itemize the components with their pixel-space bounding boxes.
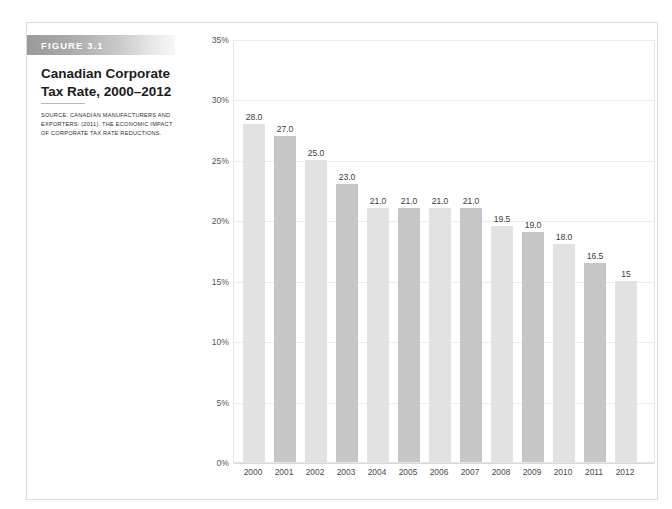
- bar[interactable]: [460, 208, 482, 462]
- y-axis-tick-label: 0%: [217, 458, 229, 468]
- bar-column[interactable]: 19.0: [522, 39, 544, 462]
- chart-region: 35%30%25%20%15%10%5%0% 28.027.025.023.02…: [195, 23, 657, 499]
- x-axis-tick-label: 2000: [238, 467, 268, 477]
- figure-caption-panel: FIGURE 3.1 Canadian Corporate Tax Rate, …: [27, 23, 195, 499]
- figure-number-badge: FIGURE 3.1: [27, 35, 175, 55]
- y-axis-tick-label: 20%: [212, 216, 229, 226]
- x-axis-tick-label: 2003: [331, 467, 361, 477]
- x-axis-tick-label: 2006: [424, 467, 454, 477]
- bar-column[interactable]: 23.0: [336, 39, 358, 462]
- y-axis-tick-label: 25%: [212, 156, 229, 166]
- bar-column[interactable]: 25.0: [305, 39, 327, 462]
- bar-column[interactable]: 21.0: [398, 39, 420, 462]
- y-axis-tick-label: 5%: [217, 398, 229, 408]
- x-axis-tick-label: 2010: [548, 467, 578, 477]
- bar[interactable]: [243, 124, 265, 462]
- x-axis-tick-labels: 2000200120022003200420052006200720082009…: [233, 467, 655, 485]
- bar-value-label: 23.0: [336, 172, 358, 182]
- caption-divider: [41, 103, 85, 104]
- bar-column[interactable]: 18.0: [553, 39, 575, 462]
- bar-column[interactable]: 16.5: [584, 39, 606, 462]
- figure-number-label: FIGURE 3.1: [27, 40, 104, 51]
- bar-column[interactable]: 21.0: [429, 39, 451, 462]
- bar-column[interactable]: 21.0: [367, 39, 389, 462]
- x-axis-tick-label: 2007: [455, 467, 485, 477]
- bar-column[interactable]: 15: [615, 39, 637, 462]
- y-axis-tick-label: 35%: [212, 35, 229, 45]
- bar-value-label: 18.0: [553, 232, 575, 242]
- figure-source-note: SOURCE: CANADIAN MANUFACTURERS AND EXPOR…: [41, 111, 173, 138]
- bar-value-label: 19.5: [491, 214, 513, 224]
- figure-title: Canadian Corporate Tax Rate, 2000–2012: [41, 65, 187, 101]
- bar[interactable]: [367, 208, 389, 462]
- bar[interactable]: [336, 184, 358, 462]
- x-axis-tick-label: 2011: [579, 467, 609, 477]
- bar[interactable]: [398, 208, 420, 462]
- bar-value-label: 16.5: [584, 251, 606, 261]
- bar-column[interactable]: 19.5: [491, 39, 513, 462]
- bar[interactable]: [615, 281, 637, 462]
- x-axis-tick-label: 2004: [362, 467, 392, 477]
- bar-value-label: 27.0: [274, 124, 296, 134]
- x-axis-tick-label: 2008: [486, 467, 516, 477]
- y-axis-tick-label: 15%: [212, 277, 229, 287]
- y-axis-tick-label: 10%: [212, 337, 229, 347]
- bar-value-label: 21.0: [367, 196, 389, 206]
- x-axis-tick-label: 2012: [610, 467, 640, 477]
- bar[interactable]: [553, 244, 575, 462]
- figure-frame: FIGURE 3.1 Canadian Corporate Tax Rate, …: [26, 22, 658, 500]
- x-axis-tick-label: 2005: [393, 467, 423, 477]
- bar-column[interactable]: 21.0: [460, 39, 482, 462]
- bar-column[interactable]: 28.0: [243, 39, 265, 462]
- y-axis-tick-label: 30%: [212, 95, 229, 105]
- bar-value-label: 15: [615, 269, 637, 279]
- bar-value-label: 28.0: [243, 112, 265, 122]
- bar[interactable]: [429, 208, 451, 462]
- bar-value-label: 21.0: [460, 196, 482, 206]
- x-axis-tick-label: 2002: [300, 467, 330, 477]
- bar-value-label: 19.0: [522, 220, 544, 230]
- bar[interactable]: [305, 160, 327, 462]
- x-axis-tick-label: 2001: [269, 467, 299, 477]
- bar[interactable]: [584, 263, 606, 462]
- gridline: [234, 463, 654, 464]
- y-axis-tick-labels: 35%30%25%20%15%10%5%0%: [195, 40, 229, 463]
- bar-column[interactable]: 27.0: [274, 39, 296, 462]
- bar-value-label: 21.0: [398, 196, 420, 206]
- x-axis-tick-label: 2009: [517, 467, 547, 477]
- bar-series: 28.027.025.023.021.021.021.021.019.519.0…: [234, 41, 654, 462]
- bar-value-label: 25.0: [305, 148, 327, 158]
- bar[interactable]: [491, 226, 513, 462]
- bar[interactable]: [274, 136, 296, 462]
- bar[interactable]: [522, 232, 544, 462]
- plot-area: 28.027.025.023.021.021.021.021.019.519.0…: [233, 40, 655, 463]
- bar-value-label: 21.0: [429, 196, 451, 206]
